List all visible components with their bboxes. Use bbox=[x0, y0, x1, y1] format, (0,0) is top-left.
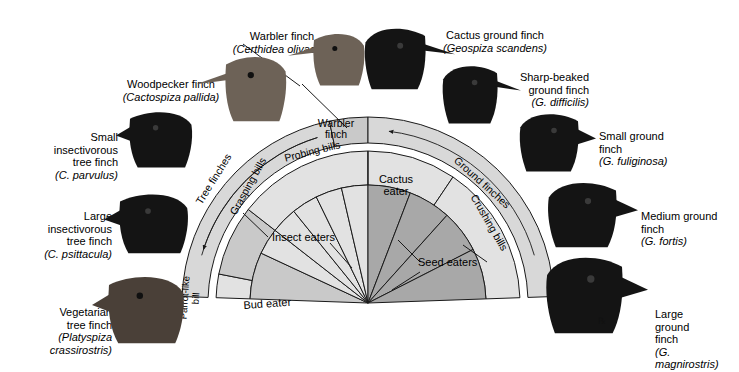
species-common-name: Small ground finch bbox=[599, 130, 664, 154]
figure-canvas: Warbler finch Tree finches Ground finche… bbox=[0, 0, 739, 372]
species-common-name: Cactus ground finch bbox=[446, 29, 544, 41]
bird-eye bbox=[472, 80, 478, 86]
bird-vegetarian-tree-finch-silhouette bbox=[92, 272, 186, 344]
bird-small-ground-finch-silhouette bbox=[518, 110, 596, 172]
species-common-name: Sharp-beaked ground finch bbox=[520, 71, 589, 95]
bird-eye bbox=[397, 43, 403, 49]
species-label-large-ground-finch: Large ground finch (G. magnirostris) bbox=[655, 296, 739, 372]
species-common-name: Large insectivorous tree finch bbox=[48, 210, 112, 247]
bird-large-insectivorous-tree-finch-silhouette bbox=[104, 190, 190, 254]
species-scientific-name: (G. fortis) bbox=[641, 235, 739, 247]
species-common-name: Medium ground finch bbox=[641, 210, 717, 234]
species-label-large-insectivorous-tree-finch: Large insectivorous tree finch (C. psitt… bbox=[2, 198, 112, 272]
bird-eye bbox=[248, 72, 254, 78]
bird-woodpecker-finch bbox=[196, 52, 288, 122]
fan-label-cactus-eater: Cactus eater bbox=[368, 173, 424, 197]
artist-signature: ℞ bbox=[598, 316, 606, 326]
bird-eye bbox=[587, 275, 594, 282]
species-label-small-ground-finch: Small ground finch (G. fuliginosa) bbox=[599, 118, 729, 180]
fan-label-seed-eaters: Seed eaters bbox=[418, 256, 477, 268]
bird-large-insectivorous-tree-finch bbox=[104, 190, 190, 254]
species-label-small-insectivorous-tree-finch: Small insectivorous tree finch (C. parvu… bbox=[8, 119, 118, 193]
bird-medium-ground-finch-silhouette bbox=[546, 178, 638, 248]
species-scientific-name: (C. psittacula) bbox=[2, 248, 112, 260]
bird-eye bbox=[145, 208, 151, 214]
species-scientific-name: (C. parvulus) bbox=[8, 169, 118, 181]
species-common-name: Large ground finch bbox=[655, 308, 689, 345]
bird-eye bbox=[332, 46, 337, 51]
species-scientific-name: (G. fuliginosa) bbox=[599, 155, 729, 167]
fan-label-insect-eaters: Insect eaters bbox=[272, 231, 335, 243]
species-common-name: Small insectivorous tree finch bbox=[54, 131, 118, 168]
bird-sharp-beaked-ground-finch bbox=[441, 62, 521, 124]
bird-woodpecker-finch-silhouette bbox=[196, 52, 288, 122]
bird-vegetarian-tree-finch bbox=[92, 272, 186, 344]
bird-warbler-finch-silhouette bbox=[288, 30, 366, 86]
bird-large-ground-finch-silhouette bbox=[544, 252, 648, 334]
bird-warbler-finch bbox=[288, 30, 366, 86]
bird-eye bbox=[153, 125, 158, 130]
bird-small-ground-finch bbox=[518, 110, 596, 172]
species-label-medium-ground-finch: Medium ground finch (G. fortis) bbox=[641, 198, 739, 260]
bird-medium-ground-finch bbox=[546, 178, 638, 248]
bird-eye bbox=[137, 293, 143, 299]
species-scientific-name: (G. magnirostris) bbox=[655, 346, 739, 371]
bird-eye bbox=[551, 128, 557, 134]
fan-label-warbler-finch: Warbler finch bbox=[306, 118, 366, 140]
bird-small-insectivorous-tree-finch-silhouette bbox=[116, 108, 194, 168]
bird-sharp-beaked-ground-finch-silhouette bbox=[441, 62, 521, 124]
bird-small-insectivorous-tree-finch bbox=[116, 108, 194, 168]
bird-eye bbox=[585, 198, 591, 204]
bird-large-ground-finch bbox=[544, 252, 648, 334]
